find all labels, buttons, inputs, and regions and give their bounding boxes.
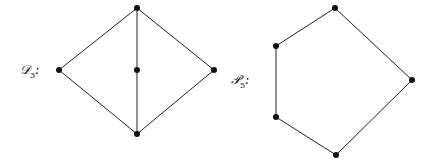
vertex [333, 152, 339, 158]
edge [336, 80, 412, 155]
vertex [134, 67, 140, 73]
label-p5-main: 𝒫 [231, 72, 240, 87]
label-p5-colon: : [245, 72, 249, 87]
vertex [134, 131, 140, 137]
edge [137, 70, 214, 134]
label-p5: 𝒫5: [231, 72, 249, 90]
vertex [134, 5, 140, 11]
edge [276, 8, 335, 46]
edge [276, 117, 336, 155]
edge [137, 8, 214, 70]
vertex [56, 67, 62, 73]
vertex [273, 114, 279, 120]
label-d3-main: 𝒟 [20, 62, 30, 77]
vertex [211, 67, 217, 73]
graph-canvas [0, 0, 427, 168]
vertex [409, 77, 415, 83]
label-d3-colon: : [35, 62, 39, 77]
label-d3: 𝒟3: [20, 62, 39, 80]
edge [59, 70, 137, 134]
edge [59, 8, 137, 70]
vertex [273, 43, 279, 49]
vertex [332, 5, 338, 11]
edge [335, 8, 412, 80]
